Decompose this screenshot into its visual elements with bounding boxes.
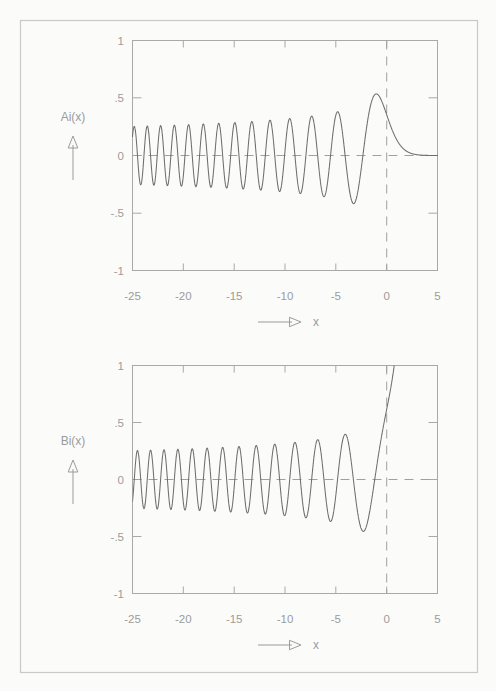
ytick-label-ai-5: -1 [114, 265, 124, 277]
xtick-label-ai-6: 0 [383, 290, 389, 302]
curve-bi [133, 363, 395, 531]
ytick-label-ai-2: .5 [114, 92, 124, 104]
xtick-label-ai-4: -10 [277, 290, 294, 302]
ytick-label-bi-3: 0 [118, 474, 124, 486]
curve-ai [133, 94, 438, 204]
y-axis-arrow-ai [68, 136, 78, 180]
ytick-label-bi-5: -1 [114, 588, 124, 600]
xtick-label-bi-4: -10 [277, 613, 294, 625]
panel-bi: 1 .5 0 -.5 -1 -25 -20 -15 -10 -5 0 5 Bi(… [61, 360, 441, 653]
y-axis-arrow-bi [68, 460, 78, 504]
xtick-label-ai-1: -25 [124, 290, 141, 302]
xtick-label-bi-2: -20 [175, 613, 192, 625]
figure-page: 1 .5 0 -.5 -1 -25 -20 -15 -10 -5 0 5 Ai(… [0, 0, 496, 691]
xtick-label-bi-6: 0 [383, 613, 389, 625]
ytick-label-bi-4: -.5 [111, 531, 124, 543]
airy-functions-figure: 1 .5 0 -.5 -1 -25 -20 -15 -10 -5 0 5 Ai(… [0, 0, 496, 691]
ytick-label-ai-1: 1 [118, 35, 124, 47]
xtick-label-ai-7: 5 [434, 290, 440, 302]
xtick-label-ai-3: -15 [226, 290, 243, 302]
xtick-label-bi-5: -5 [331, 613, 341, 625]
x-axis-title-bi: x [313, 638, 319, 652]
ytick-label-ai-4: -.5 [111, 207, 124, 219]
x-axis-arrow-ai [258, 317, 301, 326]
xtick-label-bi-1: -25 [124, 613, 141, 625]
xtick-label-bi-3: -15 [226, 613, 243, 625]
x-axis-arrow-bi [258, 640, 301, 649]
page-border [21, 21, 478, 673]
x-axis-title-ai: x [313, 315, 319, 329]
y-axis-title-ai: Ai(x) [61, 110, 86, 124]
panel-ai: 1 .5 0 -.5 -1 -25 -20 -15 -10 -5 0 5 Ai(… [61, 35, 441, 330]
xtick-label-ai-5: -5 [331, 290, 341, 302]
ytick-label-ai-3: 0 [118, 150, 124, 162]
y-axis-title-bi: Bi(x) [61, 434, 86, 448]
xtick-label-ai-2: -20 [175, 290, 192, 302]
ytick-label-bi-2: .5 [114, 417, 124, 429]
xtick-label-bi-7: 5 [434, 613, 440, 625]
ytick-label-bi-1: 1 [118, 360, 124, 372]
